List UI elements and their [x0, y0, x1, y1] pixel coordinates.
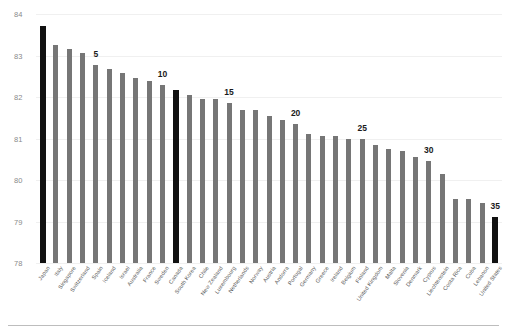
- bar: [67, 49, 72, 263]
- bar: [133, 78, 138, 264]
- bar: [107, 69, 112, 263]
- bar: [227, 103, 232, 263]
- bar: [413, 157, 418, 263]
- y-tick-label: 79: [14, 218, 36, 227]
- bar: [426, 161, 431, 263]
- bar: [53, 45, 58, 263]
- bar: [80, 53, 85, 263]
- bar: [306, 134, 311, 263]
- x-axis-category-labels: JapanItalySingaporeSwitzerlandSpainIcela…: [36, 265, 502, 327]
- y-tick-label: 80: [14, 176, 36, 185]
- y-tick-label: 84: [14, 10, 36, 19]
- chart-figure: 78798081828384 5101520253035 JapanItalyS…: [0, 0, 507, 334]
- footer-divider: [8, 325, 499, 326]
- plot-area: 5101520253035: [36, 14, 502, 263]
- bar: [480, 203, 485, 263]
- rank-callout: 5: [94, 49, 99, 59]
- rank-callout: 35: [491, 201, 500, 211]
- x-tick-label: Italy: [53, 265, 64, 277]
- rank-callout: 30: [424, 145, 433, 155]
- bar: [160, 85, 165, 263]
- rank-callout: 25: [357, 123, 366, 133]
- rank-callout: 15: [224, 87, 233, 97]
- bar: [492, 217, 498, 263]
- bar: [93, 65, 98, 263]
- bar: [320, 136, 325, 263]
- bar: [400, 151, 405, 263]
- rank-callout: 10: [158, 69, 167, 79]
- y-axis: 78798081828384: [14, 14, 38, 263]
- bar: [440, 174, 445, 263]
- bar: [187, 95, 192, 263]
- bar-series: [36, 14, 502, 263]
- bar: [240, 110, 245, 263]
- bar: [147, 81, 152, 263]
- bar: [200, 99, 205, 263]
- gridline-78: [36, 263, 502, 264]
- bar: [40, 26, 46, 263]
- bar: [453, 199, 458, 263]
- y-tick-label: 82: [14, 93, 36, 102]
- bar: [280, 120, 285, 263]
- bar: [373, 145, 378, 263]
- y-tick-label: 81: [14, 135, 36, 144]
- bar: [346, 139, 351, 264]
- x-tick-label: Japan: [37, 265, 51, 281]
- bar: [293, 124, 298, 263]
- bar: [333, 136, 338, 263]
- y-tick-label: 83: [14, 52, 36, 61]
- bar: [360, 139, 365, 264]
- bar: [173, 90, 179, 263]
- bar: [386, 149, 391, 263]
- bar: [267, 116, 272, 263]
- bar: [213, 99, 218, 263]
- y-tick-label: 78: [14, 259, 36, 268]
- bar: [466, 199, 471, 263]
- bar: [253, 110, 258, 263]
- bar: [120, 73, 125, 263]
- rank-callout: 20: [291, 108, 300, 118]
- x-tick-label: Chile: [198, 265, 211, 279]
